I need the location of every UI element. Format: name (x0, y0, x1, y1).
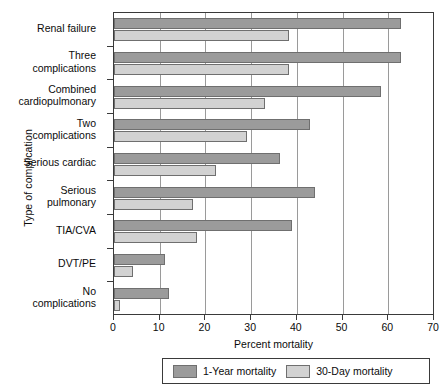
bar-30-day (114, 266, 133, 277)
legend-swatch-1-year (173, 365, 197, 378)
y-axis-category-label: Combined cardiopulmonary (0, 83, 96, 107)
y-axis-tick (107, 147, 113, 148)
x-axis-tick (387, 315, 388, 320)
x-axis-tick-label: 70 (413, 321, 448, 333)
bar-chart: Type of complication 010203040506070Rena… (0, 0, 448, 392)
y-axis-tick (107, 79, 113, 80)
legend-label-30-day: 30-Day mortality (316, 365, 392, 377)
y-axis-tick (107, 281, 113, 282)
bar-1-year (114, 153, 280, 164)
bar-1-year (114, 18, 401, 29)
x-axis-tick-label: 30 (230, 321, 270, 333)
legend-swatch-30-day (286, 365, 310, 378)
bar-30-day (114, 232, 197, 243)
y-axis-tick (107, 248, 113, 249)
bar-30-day (114, 30, 289, 41)
legend-label-1-year: 1-Year mortality (203, 365, 276, 377)
x-axis-tick-label: 10 (139, 321, 179, 333)
y-axis-tick (107, 180, 113, 181)
y-axis-category-label: Serious pulmonary (0, 184, 96, 208)
y-axis-category-label: Renal failure (0, 22, 96, 34)
x-axis-tick (250, 315, 251, 320)
x-axis-tick (342, 315, 343, 320)
y-axis-category-label: Three complications (0, 49, 96, 73)
x-axis-title: Percent mortality (113, 338, 434, 350)
x-axis-tick-label: 40 (276, 321, 316, 333)
bar-1-year (114, 86, 381, 97)
chart-legend: 1-Year mortality 30-Day mortality (162, 358, 430, 384)
x-axis-tick (204, 315, 205, 320)
y-axis-tick (107, 113, 113, 114)
bar-30-day (114, 300, 120, 311)
bar-1-year (114, 220, 292, 231)
y-axis-category-label: TIA/CVA (0, 224, 96, 236)
bar-30-day (114, 98, 265, 109)
x-axis-tick (159, 315, 160, 320)
bar-1-year (114, 254, 165, 265)
bar-30-day (114, 165, 216, 176)
y-axis-category-label: Serious cardiac (0, 156, 96, 168)
y-axis-tick (107, 46, 113, 47)
legend-item-30-day: 30-Day mortality (286, 365, 392, 378)
bar-1-year (114, 119, 310, 130)
x-axis-tick (433, 315, 434, 320)
x-axis-tick-label: 60 (367, 321, 407, 333)
x-axis-tick-label: 50 (322, 321, 362, 333)
x-axis-tick-label: 20 (184, 321, 224, 333)
bar-1-year (114, 52, 401, 63)
bar-30-day (114, 64, 289, 75)
x-axis-tick (113, 315, 114, 320)
bar-1-year (114, 187, 315, 198)
x-axis-tick (296, 315, 297, 320)
y-axis-category-label: DVT/PE (0, 257, 96, 269)
bar-30-day (114, 199, 193, 210)
x-axis-tick-label: 0 (93, 321, 133, 333)
y-axis-category-label: No complications (0, 285, 96, 309)
plot-area (113, 12, 434, 315)
y-axis-title: Type of complication (22, 88, 34, 268)
bar-30-day (114, 131, 247, 142)
legend-item-1-year: 1-Year mortality (173, 365, 276, 378)
bar-1-year (114, 288, 169, 299)
y-axis-tick (107, 214, 113, 215)
y-axis-category-label: Two complications (0, 117, 96, 141)
